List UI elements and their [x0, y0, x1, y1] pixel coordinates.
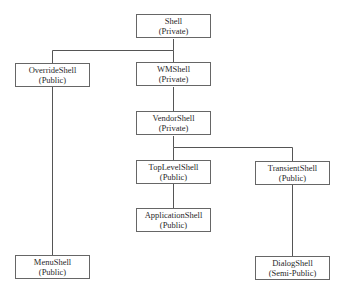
node-access: (Private) — [137, 26, 210, 36]
node-name: TransientShell — [256, 163, 329, 173]
node-name: OverrideShell — [16, 65, 89, 75]
node-name: ApplicationShell — [137, 210, 210, 220]
node-application-shell: ApplicationShell (Public) — [136, 208, 211, 232]
node-wm-shell: WMShell (Private) — [136, 62, 211, 86]
hierarchy-diagram — [0, 0, 342, 288]
node-access: (Public) — [137, 220, 210, 230]
node-dialog-shell: DialogShell (Semi-Public) — [255, 256, 330, 280]
node-access: (Public) — [137, 172, 210, 182]
node-name: TopLevelShell — [137, 162, 210, 172]
node-access: (Public) — [256, 173, 329, 183]
node-override-shell: OverrideShell (Public) — [15, 63, 90, 87]
node-access: (Private) — [137, 123, 210, 133]
node-access: (Public) — [16, 267, 89, 277]
node-name: Shell — [137, 16, 210, 26]
node-name: VendorShell — [137, 113, 210, 123]
edge-vendor-children — [174, 136, 293, 161]
edge-shell-children — [53, 39, 174, 63]
node-menu-shell: MenuShell (Public) — [15, 255, 90, 279]
node-toplevel-shell: TopLevelShell (Public) — [136, 160, 211, 184]
node-access: (Private) — [137, 74, 210, 84]
node-name: DialogShell — [256, 258, 329, 268]
node-vendor-shell: VendorShell (Private) — [136, 111, 211, 135]
node-name: MenuShell — [16, 257, 89, 267]
node-transient-shell: TransientShell (Public) — [255, 161, 330, 185]
node-access: (Semi-Public) — [256, 268, 329, 278]
node-access: (Public) — [16, 75, 89, 85]
node-shell: Shell (Private) — [136, 14, 211, 38]
node-name: WMShell — [137, 64, 210, 74]
